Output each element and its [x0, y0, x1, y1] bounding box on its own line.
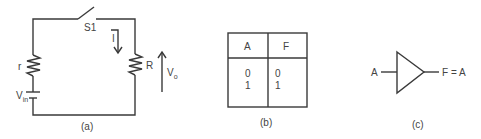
resistor-R [129, 54, 142, 75]
resistor-r-label: r [18, 61, 22, 72]
figure-canvas: S1 I r R Vin Vo (a) A F 0 0 1 1 (b) A F … [0, 0, 481, 139]
caption-c: (c) [412, 119, 424, 130]
wire-bottom [33, 75, 135, 115]
buffer-gate: A F = A (c) [371, 52, 466, 130]
table-header-a: A [244, 41, 251, 52]
circuit-diagram: S1 I r R Vin Vo (a) [16, 7, 178, 132]
buffer-output-label: F = A [442, 67, 466, 78]
switch-s1 [78, 7, 94, 19]
caption-a: (a) [81, 121, 93, 132]
buffer-input-label: A [371, 67, 378, 78]
table-cell: 0 [275, 68, 281, 79]
vo-label: Vo [167, 67, 178, 80]
caption-b: (b) [260, 117, 272, 128]
table-cell: 1 [275, 80, 281, 91]
resistor-R-label: R [146, 60, 153, 71]
switch-label: S1 [84, 22, 97, 33]
truth-table: A F 0 0 1 1 (b) [228, 33, 307, 128]
table-cell: 1 [245, 80, 251, 91]
resistor-r [27, 55, 40, 76]
wire-top-left [33, 19, 78, 55]
buffer-triangle [397, 52, 424, 93]
table-header-f: F [283, 41, 289, 52]
table-cell: 0 [245, 68, 251, 79]
current-label: I [112, 33, 115, 44]
